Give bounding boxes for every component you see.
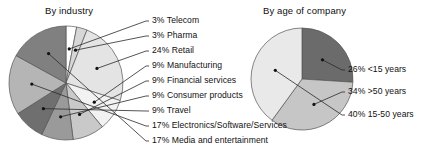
callout-label: 9% Financial services [152, 76, 236, 85]
callout-label: 9% Travel [152, 106, 191, 115]
callout-anchor-dot [321, 58, 324, 61]
callout-label: 40% 15-50 years [348, 110, 414, 119]
callout-label: 9% Consumer products [152, 91, 243, 100]
callout-label: 9% Manufacturing [152, 61, 222, 70]
pie-slice [302, 28, 353, 82]
callout-anchor-dot [312, 103, 315, 106]
callout-label: 24% Retail [152, 46, 194, 55]
callout-label: 26% <15 years [348, 65, 406, 74]
callout-label: 17% Electronics/Software/Services [152, 121, 287, 130]
callout-label: 17% Media and entertainment [152, 136, 268, 145]
callout-label: 3% Telecom [152, 16, 199, 25]
figure-root: By industry By age of company 3% Telecom… [0, 0, 430, 154]
callout-label: 34% >50 years [348, 87, 406, 96]
callout-anchor-dot [274, 69, 277, 72]
callout-label: 3% Pharma [152, 31, 197, 40]
